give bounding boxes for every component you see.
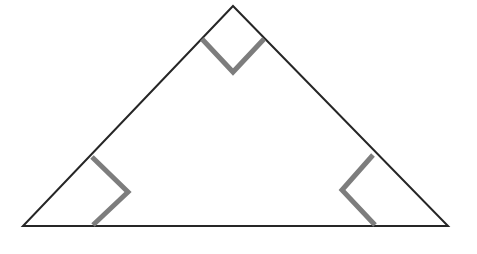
- triangle-figure-svg: [0, 0, 477, 254]
- figure-canvas: [0, 0, 477, 254]
